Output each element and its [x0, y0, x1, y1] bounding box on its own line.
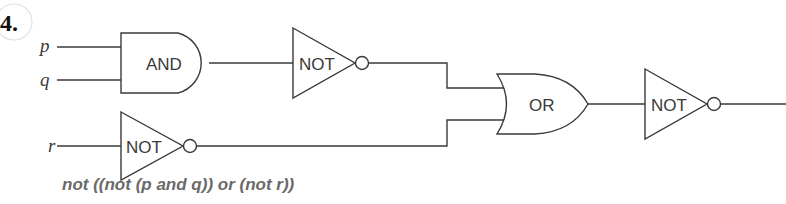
- problem-number-badge: 4.: [0, 4, 32, 40]
- not-gate-1-label: NOT: [299, 55, 335, 74]
- not-gate-output: NOT: [645, 69, 721, 139]
- logic-circuit-diagram: 4. p q r AND NOT NOT OR NOT: [0, 0, 786, 204]
- not-gate-1: NOT: [293, 28, 369, 98]
- inversion-bubble-icon: [184, 140, 197, 153]
- inversion-bubble-icon: [708, 98, 721, 111]
- input-label-p: p: [38, 35, 50, 56]
- wire-notr-to-or: [196, 120, 504, 146]
- not-gate-r: NOT: [121, 112, 197, 180]
- problem-number: 4.: [0, 10, 18, 36]
- inversion-bubble-icon: [356, 57, 369, 70]
- input-label-q: q: [40, 69, 50, 90]
- and-gate: AND: [121, 33, 201, 93]
- boolean-expression: not ((not (p and q)) or (not r)): [62, 175, 294, 195]
- wire-not1-to-or: [368, 63, 504, 88]
- and-gate-label: AND: [146, 55, 182, 74]
- not-gate-r-label: NOT: [126, 138, 162, 157]
- not-gate-output-label: NOT: [651, 96, 687, 115]
- or-gate: OR: [497, 74, 588, 134]
- or-gate-label: OR: [529, 96, 555, 115]
- input-label-r: r: [48, 135, 56, 156]
